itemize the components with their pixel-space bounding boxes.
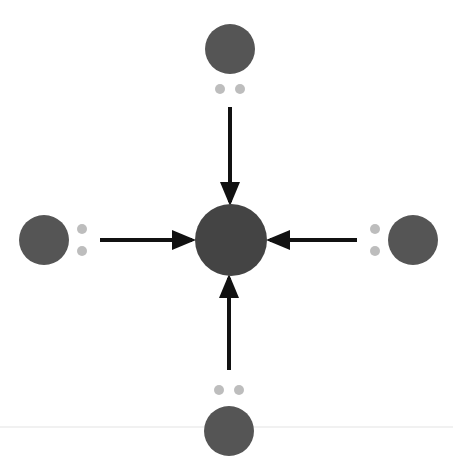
atom-left: [19, 215, 69, 265]
lone-pair-electron-bottom-1: [214, 385, 224, 395]
lone-pair-electron-bottom-2: [234, 385, 244, 395]
atom-top: [205, 24, 255, 74]
lone-pair-electron-right-2: [370, 246, 380, 256]
lone-pair-electron-right-1: [370, 224, 380, 234]
atom-bottom: [204, 406, 254, 456]
lone-pair-electron-top-2: [235, 84, 245, 94]
atom-right: [388, 215, 438, 265]
lone-pair-electron-left-1: [77, 224, 87, 234]
lone-pair-electron-top-1: [215, 84, 225, 94]
atoms-group: [19, 24, 438, 456]
diagram-canvas: [0, 0, 453, 471]
lone-pair-electron-left-2: [77, 246, 87, 256]
central-atom: [195, 204, 267, 276]
